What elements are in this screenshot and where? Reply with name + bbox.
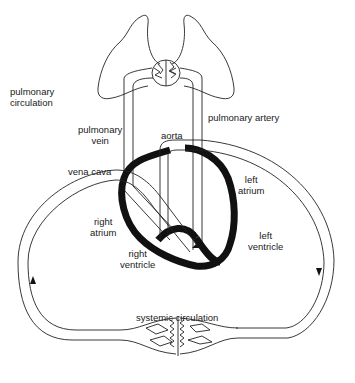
label-left-ventricle: left ventricle <box>248 230 283 252</box>
label-line: right <box>120 248 155 259</box>
label-line: left <box>238 174 264 185</box>
label-aorta: aorta <box>161 130 183 141</box>
label-line: atrium <box>238 185 264 196</box>
label-line: vein <box>78 135 122 146</box>
label-pulmonary-vein: pulmonary vein <box>78 124 122 146</box>
label-line: pulmonary <box>10 86 54 97</box>
flow-arrow-down <box>316 268 322 276</box>
label-left-atrium: left atrium <box>238 174 264 196</box>
circulation-diagram <box>0 0 355 383</box>
label-right-ventricle: right ventricle <box>120 248 155 270</box>
aorta <box>160 140 334 338</box>
lung-capillary-bed <box>152 60 180 86</box>
flow-arrow-up <box>30 276 36 284</box>
label-line: circulation <box>10 97 54 108</box>
label-vena-cava: vena cava <box>68 166 111 177</box>
label-line: left <box>248 230 283 241</box>
label-systemic-circulation: systemic circulation <box>136 312 218 323</box>
label-line: atrium <box>90 227 116 238</box>
label-right-atrium: right atrium <box>90 216 116 238</box>
label-pulmonary-circulation: pulmonary circulation <box>10 86 54 108</box>
label-line: ventricle <box>120 259 155 270</box>
label-line: right <box>90 216 116 227</box>
label-line: ventricle <box>248 241 283 252</box>
label-line: pulmonary <box>78 124 122 135</box>
label-pulmonary-artery: pulmonary artery <box>208 112 279 123</box>
